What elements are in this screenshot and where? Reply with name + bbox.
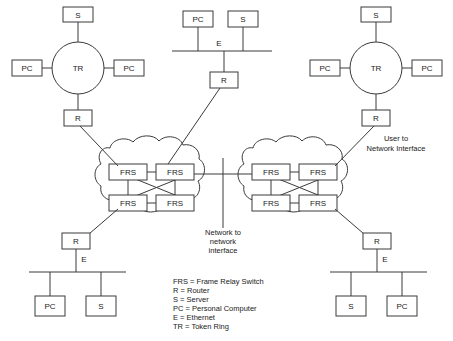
center-ethernet-bus-label: E [216, 39, 221, 48]
legend-item-pc: PC = Personal Computer [173, 304, 257, 313]
left-cloud-frs-top-right-label: FRS [167, 168, 183, 177]
legend: FRS = Frame Relay Switch R = Router S = … [173, 277, 264, 331]
network-diagram-page: TR S PC PC R PC S E R [0, 0, 453, 341]
bottom-right-pc-label: PC [396, 302, 407, 311]
right-ring-server-label: S [373, 11, 378, 20]
legend-item-server: S = Server [173, 295, 209, 304]
bottom-left-router-label: R [73, 237, 79, 246]
bottom-right-ethernet-bus-label: E [382, 255, 387, 264]
uni-annotation: User to Network Interface [367, 134, 426, 153]
legend-item-ethernet: E = Ethernet [173, 313, 216, 322]
right-ring-router-label: R [373, 114, 379, 123]
center-lan-group: PC S E R [172, 11, 272, 88]
left-token-ring-label: TR [73, 64, 84, 73]
bottom-right-server-label: S [348, 302, 353, 311]
uni-annotation-line1: User to [384, 134, 408, 143]
left-ring-router-label: R [75, 114, 81, 123]
right-cloud-frs-top-right-label: FRS [310, 168, 326, 177]
bottom-left-lan-group: R E PC S [29, 233, 126, 316]
right-token-ring-label: TR [371, 64, 382, 73]
legend-item-token-ring: TR = Token Ring [173, 322, 229, 331]
bottom-right-lan-group: R E S PC [330, 233, 427, 316]
bottom-left-server-label: S [98, 302, 103, 311]
right-cloud-frs-top-left-label: FRS [263, 168, 279, 177]
nni-annotation-line3: interface [209, 246, 238, 255]
right-cloud-frs-bottom-left-label: FRS [263, 199, 279, 208]
left-ring-pc-left-label: PC [21, 64, 32, 73]
bottom-left-pc-label: PC [44, 302, 55, 311]
legend-item-router: R = Router [173, 286, 210, 295]
nni-annotation-line2: network [210, 237, 237, 246]
right-ring-pc-right-label: PC [421, 64, 432, 73]
center-server-label: S [240, 15, 245, 24]
right-ring-pc-left-label: PC [319, 64, 330, 73]
left-cloud-frs-bottom-right-label: FRS [167, 199, 183, 208]
bottom-left-ethernet-bus-label: E [81, 255, 86, 264]
network-diagram-canvas: TR S PC PC R PC S E R [0, 0, 453, 341]
center-router-label: R [221, 76, 227, 85]
nni-annotation: Network to network interface [205, 228, 241, 255]
nni-annotation-line1: Network to [205, 228, 241, 237]
left-ring-pc-right-label: PC [123, 64, 134, 73]
left-token-ring-group: TR S PC PC R [12, 7, 144, 126]
legend-item-frs: FRS = Frame Relay Switch [173, 277, 264, 286]
left-cloud-frs-top-left-label: FRS [120, 168, 136, 177]
right-cloud-frs-bottom-right-label: FRS [310, 199, 326, 208]
right-token-ring-group: TR S PC PC R [310, 7, 442, 126]
center-pc-label: PC [192, 15, 203, 24]
uni-annotation-line2: Network Interface [367, 144, 426, 153]
left-cloud-frs-bottom-left-label: FRS [120, 199, 136, 208]
bottom-right-router-label: R [374, 237, 380, 246]
left-ring-server-label: S [75, 11, 80, 20]
